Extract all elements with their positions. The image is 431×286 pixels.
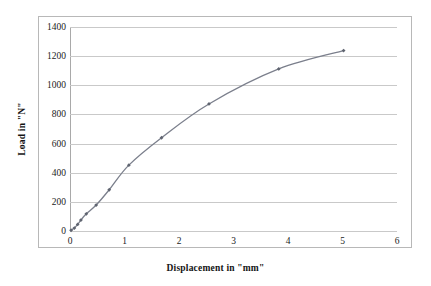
x-tick-label: 2: [169, 236, 189, 246]
x-tick-label: 1: [115, 236, 135, 246]
gridline-y-0: [70, 231, 397, 232]
x-tick-label: 6: [387, 236, 407, 246]
y-tick-label: 0: [61, 226, 66, 236]
y-tick-label: 600: [52, 139, 66, 149]
y-tick-label: 800: [52, 109, 66, 119]
y-axis-title: Load in "N": [17, 69, 27, 189]
y-tick-label: 200: [52, 197, 66, 207]
y-tick-label: 1200: [47, 51, 66, 61]
y-tick-label: 1000: [47, 80, 66, 90]
chart-screenshot: 0200400600800100012001400 0123456 Displa…: [0, 0, 431, 286]
x-tick-label: 3: [224, 236, 244, 246]
chart-plot-svg: [70, 27, 397, 231]
x-tick-label: 0: [60, 236, 80, 246]
x-axis-tick-labels: 0123456: [0, 236, 431, 250]
x-tick-label: 4: [278, 236, 298, 246]
series-markers: [69, 49, 345, 232]
series-line-load-vs-displacement: [71, 51, 344, 231]
x-axis-title: Displacement in "mm": [0, 263, 431, 273]
data-point-marker: [277, 67, 281, 71]
plot-area: [70, 27, 397, 231]
data-point-marker: [342, 49, 346, 53]
y-tick-label: 1400: [47, 22, 66, 32]
x-tick-label: 5: [333, 236, 353, 246]
y-tick-label: 400: [52, 168, 66, 178]
